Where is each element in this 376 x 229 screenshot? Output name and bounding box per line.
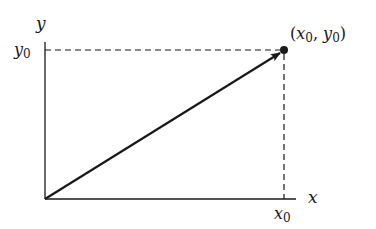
y-axis-label: y (35, 13, 46, 33)
position-vector-arrow (45, 53, 280, 199)
vector-diagram: y y0 x x0 (x0, y0) (0, 0, 376, 229)
x-tick-label: x0 (274, 204, 291, 225)
point-coordinate-label: (x0, y0) (290, 24, 346, 45)
x-axis-label: x (308, 187, 318, 207)
y-tick-label: y0 (13, 40, 31, 61)
point-marker (280, 46, 288, 54)
